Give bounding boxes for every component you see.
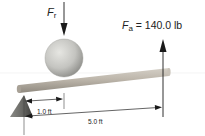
applied-force-label: Fa = 140.0 lb bbox=[122, 19, 182, 33]
lever-diagram: Fr Fa = 140.0 lb 1.0 ft 5.0 ft bbox=[0, 0, 205, 136]
sphere-load bbox=[45, 39, 83, 77]
dimension-5ft-label: 5.0 ft bbox=[88, 118, 103, 125]
beam bbox=[17, 68, 171, 93]
dimension-1ft-label: 1.0 ft bbox=[37, 108, 52, 115]
applied-force-arrow bbox=[160, 39, 167, 117]
fulcrum bbox=[10, 95, 33, 117]
resistance-force-label: Fr bbox=[47, 6, 57, 20]
dimension-1ft bbox=[25, 97, 63, 104]
resistance-force-arrow bbox=[61, 2, 68, 36]
